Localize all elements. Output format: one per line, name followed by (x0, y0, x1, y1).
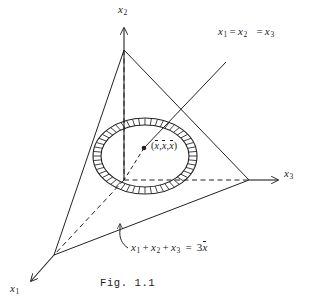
centroid-point-marker (142, 146, 147, 151)
centroid-connector-dashed (124, 148, 144, 180)
simplex-diagram-canvas (0, 0, 318, 306)
construction-dashed-lines (54, 50, 249, 255)
centroid-coordinates-label: (x,x,x) (151, 141, 177, 151)
figure-caption: Fig. 1.1 (100, 277, 155, 289)
axis-label-x1: x1 (10, 283, 20, 296)
hatched-annulus-region (93, 118, 197, 194)
diagonal-equal-coordinates-line (144, 62, 226, 148)
axis-label-x2: x2 (118, 4, 128, 17)
plane-equation-label: x1+x2+x3 = 3x (131, 242, 208, 255)
axis-label-x3: x3 (284, 168, 294, 181)
figure-1-1: x2 x3 x1 x1=x2 =x3 (x,x,x) x1+x2+x3 = 3x… (0, 0, 318, 306)
diagonal-line-label: x1=x2 =x3 (218, 26, 274, 39)
axis-x1-line (31, 255, 54, 281)
